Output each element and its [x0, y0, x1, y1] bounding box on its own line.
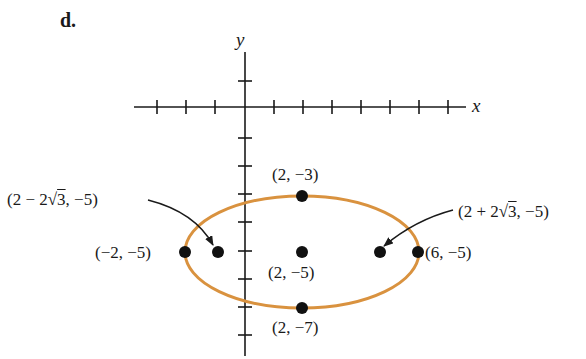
point-left-focus	[212, 246, 224, 258]
label-right-focus: (2 + 2√3, −5)	[458, 203, 549, 220]
label-top-vertex: (2, −3)	[272, 166, 318, 183]
label-left-vertex: (−2, −5)	[95, 244, 151, 261]
point-right-vertex	[412, 246, 424, 258]
point-center	[296, 246, 308, 258]
label-right-vertex: (6, −5)	[425, 244, 471, 261]
label-bottom-vertex: (2, −7)	[272, 319, 318, 336]
point-left-vertex	[179, 246, 191, 258]
part-label: d.	[60, 10, 76, 30]
point-right-focus	[374, 246, 386, 258]
label-left-focus: (2 − 2√3, −5)	[7, 191, 98, 208]
right-focus-arrow	[384, 210, 453, 246]
point-top-vertex	[296, 190, 308, 202]
x-axis-label: x	[472, 96, 480, 115]
points	[179, 190, 424, 314]
point-bottom-vertex	[296, 302, 308, 314]
x-axis	[134, 100, 466, 114]
y-axis-label: y	[236, 30, 244, 49]
label-center: (2, −5)	[268, 264, 314, 281]
